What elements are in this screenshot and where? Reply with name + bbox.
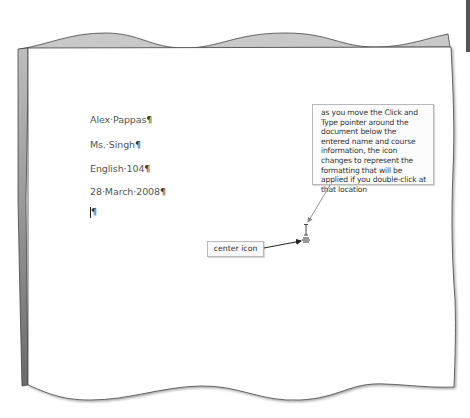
paragraph-mark-icon: ¶ [146, 114, 152, 125]
doc-line-course: English·104¶ [90, 163, 150, 174]
torn-page-illustration [0, 0, 470, 418]
side-thumb-tab [466, 0, 470, 52]
paragraph-mark-icon: ¶ [144, 163, 150, 174]
paragraph-mark-icon: ¶ [91, 206, 97, 217]
paragraph-mark-icon: ¶ [135, 139, 141, 150]
click-and-type-center-pointer-icon[interactable] [300, 224, 312, 246]
insertion-point-line[interactable]: ¶ [90, 207, 102, 219]
doc-line-instructor: Ms.·Singh¶ [90, 139, 141, 150]
center-icon-label: center icon [207, 241, 264, 257]
doc-line-date: 28·March·2008¶ [90, 186, 166, 197]
left-page-edge [18, 48, 28, 386]
top-torn-edge [20, 33, 450, 49]
paragraph-mark-icon: ¶ [160, 186, 166, 197]
doc-line-name: Alex·Pappas¶ [90, 114, 152, 125]
page-surface [28, 47, 455, 400]
click-and-type-callout: as you move the Click and Type pointer a… [312, 104, 434, 185]
